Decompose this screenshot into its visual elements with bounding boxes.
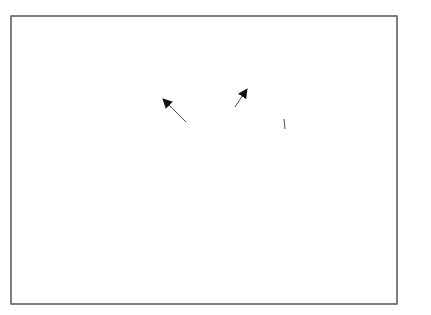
edges xyxy=(163,89,285,129)
diagram-canvas xyxy=(0,0,431,315)
edge-center-to-distraction xyxy=(235,89,247,107)
diagram-frame xyxy=(11,16,397,304)
edge-center-to-quality xyxy=(163,99,186,122)
